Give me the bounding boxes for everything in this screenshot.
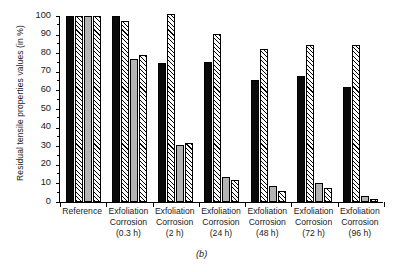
bar-series-4 <box>93 16 101 202</box>
y-axis-tick-label: 10 <box>21 177 51 187</box>
y-axis-tick-label: 50 <box>21 103 51 113</box>
x-axis-category-line: Exfoliation <box>244 206 290 217</box>
x-axis-category-line: Reference <box>59 206 105 217</box>
bar-series-1 <box>112 16 120 202</box>
x-axis-category-line: (2 h) <box>152 228 198 239</box>
x-axis-category-line: Exfoliation <box>198 206 244 217</box>
x-axis-category-line: (96 h) <box>337 228 383 239</box>
panel-label: (b) <box>196 249 207 259</box>
bar-group <box>245 17 291 202</box>
y-axis-tick-label: 100 <box>21 10 51 20</box>
x-axis-category-label: ExfoliationCorrosion(48 h) <box>244 206 290 240</box>
bar-series-3 <box>269 186 277 202</box>
bar-series-4 <box>185 143 193 202</box>
bar-series-3 <box>361 196 369 202</box>
x-axis-category-label: ExfoliationCorrosion(2 h) <box>152 206 198 240</box>
bar-group <box>338 17 384 202</box>
bar-group <box>153 17 199 202</box>
y-axis-tick-label: 20 <box>21 158 51 168</box>
x-axis-category-label: Reference <box>59 206 105 217</box>
bar-series-3 <box>130 59 138 202</box>
bar-series-3 <box>222 177 230 202</box>
bar-group <box>60 17 106 202</box>
bar-series-2 <box>352 45 360 202</box>
x-axis-tick <box>384 202 385 207</box>
bar-series-1 <box>66 16 74 202</box>
y-axis-tick-label: 90 <box>21 28 51 38</box>
x-axis-category-line: Corrosion <box>152 217 198 228</box>
x-axis-category-line: Exfoliation <box>105 206 151 217</box>
bar-series-3 <box>315 183 323 202</box>
x-axis-category-line: Exfoliation <box>337 206 383 217</box>
y-axis-tick-label: 60 <box>21 84 51 94</box>
x-axis-category-line: (48 h) <box>244 228 290 239</box>
bar-series-2 <box>121 21 129 202</box>
bar-series-1 <box>343 87 351 202</box>
bar-series-4 <box>278 191 286 202</box>
bar-series-4 <box>231 180 239 202</box>
y-axis-tick-label: 70 <box>21 65 51 75</box>
bar-series-2 <box>75 16 83 202</box>
bar-series-2 <box>306 45 314 202</box>
bar-series-4 <box>370 199 378 202</box>
x-axis-category-line: Corrosion <box>290 217 336 228</box>
x-axis-category-line: (72 h) <box>290 228 336 239</box>
y-axis-tick-label: 40 <box>21 121 51 131</box>
x-axis-category-label: ExfoliationCorrosion(96 h) <box>337 206 383 240</box>
x-axis-category-line: Exfoliation <box>152 206 198 217</box>
bar-series-3 <box>84 16 92 202</box>
bar-series-1 <box>158 63 166 202</box>
x-axis-category-line: (0.3 h) <box>105 228 151 239</box>
bar-series-4 <box>139 55 147 202</box>
bar-series-3 <box>176 145 184 202</box>
bar-group <box>291 17 337 202</box>
bar-chart-figure: Residual tensile properties values (in %… <box>0 0 410 272</box>
x-axis-category-line: (24 h) <box>198 228 244 239</box>
bar-series-4 <box>324 188 332 202</box>
bar-series-2 <box>260 49 268 202</box>
bar-series-1 <box>251 80 259 202</box>
bar-series-2 <box>167 14 175 202</box>
bar-series-1 <box>204 62 212 202</box>
y-axis-tick-label: 30 <box>21 140 51 150</box>
x-axis-category-label: ExfoliationCorrosion(0.3 h) <box>105 206 151 240</box>
x-axis-category-line: Exfoliation <box>290 206 336 217</box>
bar-group <box>199 17 245 202</box>
bar-series-2 <box>213 34 221 202</box>
x-axis-category-label: ExfoliationCorrosion(24 h) <box>198 206 244 240</box>
y-axis-tick-label: 80 <box>21 47 51 57</box>
x-axis-category-line: Corrosion <box>198 217 244 228</box>
x-axis-category-labels: ReferenceExfoliationCorrosion(0.3 h)Exfo… <box>59 206 383 254</box>
y-axis-tick-label: 0 <box>21 196 51 206</box>
bar-group <box>106 17 152 202</box>
plot-area: 0102030405060708090100 <box>59 17 383 203</box>
bar-series-1 <box>297 76 305 202</box>
x-axis-category-label: ExfoliationCorrosion(72 h) <box>290 206 336 240</box>
x-axis-category-line: Corrosion <box>337 217 383 228</box>
x-axis-category-line: Corrosion <box>244 217 290 228</box>
x-axis-category-line: Corrosion <box>105 217 151 228</box>
